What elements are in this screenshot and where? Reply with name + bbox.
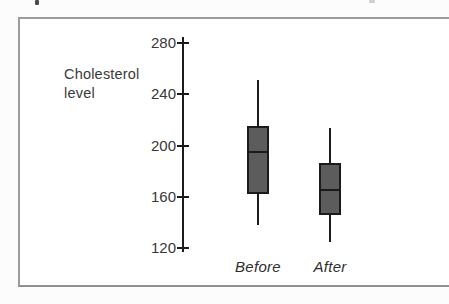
- y-axis-tick-label: 120: [134, 239, 176, 257]
- scan-artifact: [35, 0, 39, 5]
- boxplot-chart: 280240200160120BeforeAfter: [0, 0, 449, 304]
- category-label-after: After: [285, 258, 375, 275]
- y-axis-tick: [177, 196, 189, 198]
- y-axis-tick: [177, 93, 189, 95]
- y-axis-tick: [177, 247, 189, 249]
- y-axis-tick-label: 240: [134, 85, 176, 103]
- y-axis-tick: [177, 145, 189, 147]
- y-axis-tick-label: 280: [134, 34, 176, 52]
- y-axis-tick: [177, 42, 189, 44]
- scan-artifact: [369, 0, 375, 3]
- boxplot-box-before: [247, 126, 269, 194]
- boxplot-median-before: [247, 151, 269, 153]
- y-axis-tick-label: 160: [134, 188, 176, 206]
- boxplot-median-after: [319, 189, 341, 191]
- y-axis-tick-label: 200: [134, 137, 176, 155]
